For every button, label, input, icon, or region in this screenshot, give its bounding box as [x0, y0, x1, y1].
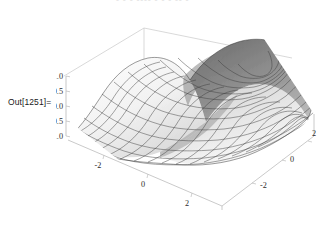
surface-mesh [70, 39, 314, 165]
z-tick-label: 0.5 [56, 87, 63, 96]
z-axis [66, 76, 70, 137]
x-tick-label: 2 [185, 199, 189, 208]
y-tick-label: -2 [260, 181, 267, 190]
surface-plot-graphic[interactable]: 1.0 0.5 0.0 -0.5 -1.0 [56, 18, 321, 218]
z-axis-tick-labels: 1.0 0.5 0.0 -0.5 -1.0 [56, 72, 63, 141]
z-tick-label: -1.0 [56, 132, 63, 141]
previous-output-line-fragment: · · · ▪ ▪ ▪ ▪▪▪▪ ▪ ▪ ▪ ▪▪ ▪ [0, 0, 321, 5]
y-tick-label: 2 [312, 129, 316, 138]
z-tick-label: -0.5 [56, 117, 63, 126]
surface-plot-svg[interactable]: 1.0 0.5 0.0 -0.5 -1.0 [56, 18, 321, 218]
previous-output-line-text: · · · ▪ ▪ ▪ ▪▪▪▪ ▪ ▪ ▪ ▪▪ ▪ [96, 0, 189, 4]
x-axis-tick-labels: -2 0 2 [95, 161, 189, 208]
z-tick-label: 1.0 [56, 72, 63, 81]
x-tick-label: -2 [95, 161, 102, 170]
notebook-output-cell: · · · ▪ ▪ ▪ ▪▪▪▪ ▪ ▪ ▪ ▪▪ ▪ Out[1251]= [0, 0, 321, 231]
out-label: Out[1251]= [8, 97, 51, 107]
x-tick-label: 0 [141, 180, 145, 189]
z-tick-label: 0.0 [56, 102, 63, 111]
y-tick-label: 0 [290, 155, 294, 164]
